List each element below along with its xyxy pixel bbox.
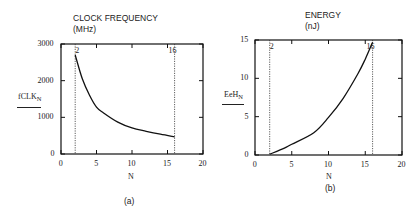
chart-b-plot: 216 [0,0,420,211]
svg-text:2: 2 [270,42,274,51]
